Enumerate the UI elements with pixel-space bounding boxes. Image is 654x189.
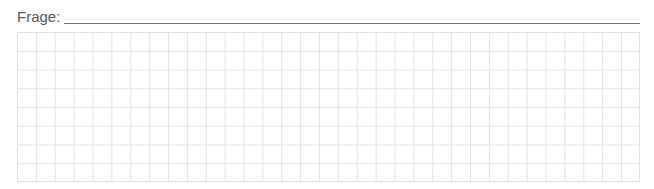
answer-line[interactable] bbox=[64, 7, 640, 24]
question-label: Frage: bbox=[17, 9, 64, 25]
question-row: Frage: bbox=[17, 5, 640, 25]
squared-grid-area[interactable] bbox=[17, 32, 640, 182]
